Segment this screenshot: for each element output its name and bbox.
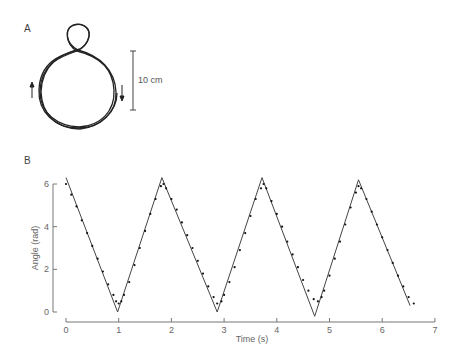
- axes: 024601234567: [44, 179, 437, 335]
- data-point: [244, 232, 246, 234]
- data-point: [392, 262, 394, 264]
- x-tick-label: 0: [63, 325, 68, 335]
- y-tick-label: 6: [44, 179, 49, 189]
- data-point: [228, 281, 230, 283]
- x-tick-label: 7: [432, 325, 437, 335]
- y-tick-label: 4: [44, 222, 49, 232]
- data-point: [408, 296, 410, 298]
- data-point: [292, 253, 294, 255]
- data-point: [376, 223, 378, 225]
- data-point: [162, 183, 164, 185]
- data-point: [102, 270, 104, 272]
- data-point: [302, 279, 304, 281]
- data-point: [139, 247, 141, 249]
- data-point: [181, 221, 183, 223]
- data-point: [133, 264, 135, 266]
- data-point: [86, 232, 88, 234]
- data-point: [307, 290, 309, 292]
- data-point: [365, 198, 367, 200]
- x-tick-label: 5: [327, 325, 332, 335]
- data-point: [118, 302, 120, 304]
- data-point: [165, 187, 167, 189]
- data-point: [176, 209, 178, 211]
- data-point: [160, 185, 162, 187]
- x-tick-label: 6: [380, 325, 385, 335]
- data-point: [249, 215, 251, 217]
- data-point: [112, 294, 114, 296]
- data-point: [91, 245, 93, 247]
- data-point: [313, 298, 315, 300]
- data-point: [413, 302, 415, 304]
- data-point: [155, 198, 157, 200]
- x-tick-label: 4: [274, 325, 279, 335]
- data-point: [297, 266, 299, 268]
- data-point: [344, 223, 346, 225]
- data-point: [234, 266, 236, 268]
- data-point: [402, 285, 404, 287]
- y-tick-label: 0: [44, 307, 49, 317]
- data-point: [270, 200, 272, 202]
- data-point: [144, 230, 146, 232]
- data-point: [328, 275, 330, 277]
- x-tick-label: 1: [116, 325, 121, 335]
- data-point: [213, 296, 215, 298]
- data-point: [357, 185, 359, 187]
- data-point: [115, 300, 117, 302]
- data-point: [355, 192, 357, 194]
- data-point: [276, 213, 278, 215]
- data-point: [70, 194, 72, 196]
- data-point: [202, 273, 204, 275]
- data-point: [123, 294, 125, 296]
- data-point: [149, 213, 151, 215]
- data-point: [220, 300, 222, 302]
- data-point: [186, 234, 188, 236]
- data-point: [216, 302, 218, 304]
- data-point: [128, 281, 130, 283]
- data-point: [317, 300, 319, 302]
- data-point: [260, 187, 262, 189]
- data-point: [286, 241, 288, 243]
- data-point: [323, 290, 325, 292]
- data-point: [81, 219, 83, 221]
- data-point: [197, 260, 199, 262]
- y-tick-label: 2: [44, 264, 49, 274]
- data-point: [386, 249, 388, 251]
- data-point: [339, 241, 341, 243]
- data-point: [75, 205, 77, 207]
- data-point: [360, 187, 362, 189]
- x-tick-label: 2: [169, 325, 174, 335]
- data-point: [381, 236, 383, 238]
- data-point: [350, 206, 352, 208]
- data-point: [321, 296, 323, 298]
- data-point: [239, 249, 241, 251]
- data-point: [65, 183, 67, 185]
- data-point: [97, 258, 99, 260]
- data-point: [120, 300, 122, 302]
- y-axis-title: Angle (rad): [30, 226, 40, 271]
- data-point: [107, 283, 109, 285]
- data-point: [397, 275, 399, 277]
- data-point: [334, 258, 336, 260]
- data-point: [191, 247, 193, 249]
- x-tick-label: 3: [222, 325, 227, 335]
- data-point: [223, 294, 225, 296]
- data-point: [265, 187, 267, 189]
- data-point: [207, 285, 209, 287]
- data-point: [263, 183, 265, 185]
- x-axis-title: Time (s): [236, 334, 269, 344]
- data-point: [371, 211, 373, 213]
- model-polyline: [66, 178, 410, 317]
- model-line: [66, 178, 410, 317]
- data-point: [255, 198, 257, 200]
- data-point: [281, 226, 283, 228]
- data-point: [170, 198, 172, 200]
- angle-time-chart: 024601234567 Time (s) Angle (rad): [0, 0, 452, 357]
